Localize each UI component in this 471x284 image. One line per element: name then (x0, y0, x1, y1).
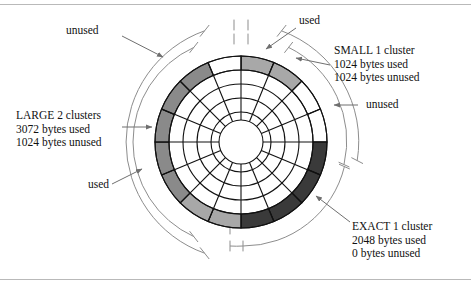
leader-used-bottom-left (112, 169, 142, 184)
bracket-tick-large-used-top (190, 42, 198, 53)
callout-exact: EXACT 1 cluster 2048 bytes used 0 bytes … (352, 220, 432, 261)
callout-large-line2: 3072 bytes used (16, 123, 102, 137)
label-unused-right: unused (366, 98, 399, 112)
track-circle-r22 (219, 120, 263, 164)
callout-large-line3: 1024 bytes unused (16, 136, 102, 150)
callout-exact-line1: EXACT 1 cluster (352, 220, 432, 234)
sector-dividers (155, 56, 327, 228)
outer-sector-0-small (241, 56, 274, 75)
outer-sector-7-exact (241, 209, 274, 228)
leader-exact-callout (316, 196, 350, 222)
outer-sector-8-small (208, 209, 241, 228)
outer-sector-4-exact (308, 142, 327, 175)
bracket-tick-small-outer-left (277, 25, 286, 37)
outer-sector-3-free (308, 109, 327, 142)
outer-sector-12-large (155, 109, 174, 142)
callout-exact-line2: 2048 bytes used (352, 234, 432, 248)
callout-large-line1: LARGE 2 clusters (16, 109, 102, 123)
figure-canvas: unused used unused used SMALL 1 cluster … (0, 0, 471, 284)
callout-exact-line3: 0 bytes unused (352, 247, 432, 261)
label-used-bottom-left: used (88, 178, 109, 192)
callout-small: SMALL 1 cluster 1024 bytes used 1024 byt… (334, 44, 420, 85)
bracket-tick-large-outer-top (200, 25, 209, 37)
bracket-tick-large-used-bottom (190, 231, 198, 242)
bracket-tick-large-outer-bottom (200, 247, 209, 259)
leader-unused-top-left (122, 36, 163, 57)
callout-small-line1: SMALL 1 cluster (334, 44, 420, 58)
callout-small-line3: 1024 bytes unused (334, 71, 420, 85)
disk-platter (155, 56, 327, 228)
callout-small-line2: 1024 bytes used (334, 58, 420, 72)
label-used-top-right: used (299, 14, 320, 28)
outer-sector-15-free (208, 56, 241, 75)
outer-sector-11-large (155, 142, 174, 175)
bracket-tick-small-unused-left (284, 42, 292, 53)
callout-large: LARGE 2 clusters 3072 bytes used 1024 by… (16, 109, 102, 150)
label-unused-top-left: unused (66, 24, 99, 38)
